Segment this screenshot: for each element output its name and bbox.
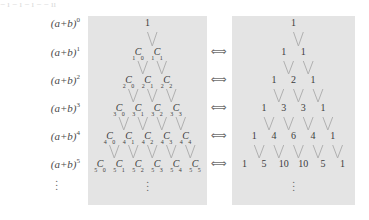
triangle-row-5: 5C05C15C25C35C45C5 [88,157,207,171]
binomial-coefficient-5-5: 5C5 [189,157,201,175]
coefficient-r: 1 [160,55,163,61]
label-exponent: 2 [77,73,81,81]
triangle-row-1: 1C01C1 [88,45,207,59]
pascal-number: 1 [262,101,267,115]
pascal-number: 1 [311,73,316,87]
label-base: (a+b) [51,17,77,29]
binomial-coefficient-1-0: 1C0 [132,45,144,63]
coefficient-r: 2 [150,139,153,145]
pascal-number: 1 [320,101,325,115]
pascal-number: 10 [298,157,308,171]
exponent-label-3: (a+b)3 [51,101,80,114]
coefficient-one: 1 [145,16,150,30]
pascal-number: 1 [252,129,257,143]
label-exponent: 0 [77,16,81,24]
coefficient-n: 1 [151,55,154,61]
coefficient-n: 5 [189,167,192,173]
pascal-number: 4 [271,129,276,143]
equivalence-arrow-row-2: ⟺ [206,73,232,87]
pascal-number: 3 [281,101,286,115]
coefficient-n: 2 [123,83,126,89]
exponent-label-1: (a+b)1 [51,45,80,58]
pascal-number: 3 [301,101,306,115]
pascal-number: 1 [301,45,306,59]
exponent-label-2: (a+b)2 [51,73,80,86]
binomial-coefficient-5-1: 5C1 [113,157,125,175]
coefficient-r: 1 [122,167,125,173]
binomial-coefficient-5-0: 5C0 [94,157,106,175]
triangle-row-3: 1331 [232,101,355,115]
label-exponent: 1 [77,45,81,53]
label-base: (a+b) [51,102,77,114]
triangle-row-2: 121 [232,73,355,87]
coefficient-r: 0 [141,55,144,61]
equivalence-arrow-row-4: ⟺ [206,129,232,143]
pascal-number: 1 [281,45,286,59]
coefficient-n: 1 [132,55,135,61]
binomial-coefficient-5-2: 5C2 [132,157,144,175]
triangle-row-3: 3C03C13C23C3 [88,101,207,115]
binomial-coefficient-2-0: 2C0 [123,73,135,91]
triangle-row-2: 2C02C12C2 [88,73,207,87]
label-base: (a+b) [51,46,77,58]
label-base: (a+b) [51,74,77,86]
label-base: (a+b) [51,130,77,142]
equivalence-arrow-row-5: ⟺ [206,157,232,171]
binomial-coefficient-1-1: 1C1 [151,45,163,63]
coefficient-r: 4 [179,167,182,173]
coefficient-r: 3 [169,139,172,145]
pascal-number: 10 [279,157,289,171]
exponent-label-4: (a+b)4 [51,129,80,142]
coefficient-r: 1 [150,83,153,89]
connector-chevron [232,32,355,46]
coefficient-r: 0 [122,111,125,117]
pascal-number: 1 [291,16,296,30]
triangle-row-4: 14641 [232,129,355,143]
coefficient-n: 4 [161,139,164,145]
coefficient-r: 0 [103,167,106,173]
triangle-row-0: 1 [88,16,207,30]
coefficient-n: 3 [170,111,173,117]
coefficient-n: 3 [113,111,116,117]
coefficient-n: 2 [142,83,145,89]
binomial-coefficient-4-0: 4C0 [104,129,116,147]
coefficient-n: 4 [123,139,126,145]
coefficient-n: 3 [151,111,154,117]
equivalence-arrow-row-1: ⟺ [206,45,232,59]
coefficient-r: 0 [131,83,134,89]
coefficient-n: 4 [104,139,107,145]
exponent-label-column: (a+b)0(a+b)1(a+b)2(a+b)3(a+b)4(a+b)5... [0,16,86,205]
binomial-coefficient-4-4: 4C4 [180,129,192,147]
binomial-coefficient-2-1: 2C1 [142,73,154,91]
label-exponent: 5 [77,157,81,165]
coefficient-r: 2 [141,167,144,173]
top-cutoff-artifact: − ı − ı − ı − − ıı [0,0,369,9]
binomial-coefficient-5-4: 5C4 [170,157,182,175]
triangle-row-4: 4C04C14C24C34C4 [88,129,207,143]
coefficient-n: 5 [170,167,173,173]
exponent-label-0: (a+b)0 [51,16,80,29]
coefficient-r: 1 [141,111,144,117]
binomial-coefficient-3-2: 3C2 [151,101,163,119]
label-exponent: 4 [77,129,81,137]
pascal-number: 1 [330,129,335,143]
coefficient-n: 5 [151,167,154,173]
symbolic-coefficients-panel: 11C01C12C02C12C23C03C13C23C34C04C14C24C3… [88,16,207,205]
binomial-coefficient-3-0: 3C0 [113,101,125,119]
pascal-triangle-panel: 11112113311464115101051... [232,16,355,205]
label-base: (a+b) [51,158,77,170]
binomial-coefficient-4-2: 4C2 [142,129,154,147]
coefficient-r: 5 [198,167,201,173]
panel-ellipsis: ... [146,177,149,189]
pascal-number: 6 [291,129,296,143]
coefficient-r: 0 [112,139,115,145]
triangle-row-5: 15101051 [232,157,355,171]
pascal-number: 1 [242,157,247,171]
coefficient-n: 4 [180,139,183,145]
pascal-number: 5 [262,157,267,171]
coefficient-n: 2 [161,83,164,89]
coefficient-n: 4 [142,139,145,145]
coefficient-r: 1 [131,139,134,145]
triangle-row-1: 11 [232,45,355,59]
equivalence-arrow-row-3: ⟺ [206,101,232,115]
